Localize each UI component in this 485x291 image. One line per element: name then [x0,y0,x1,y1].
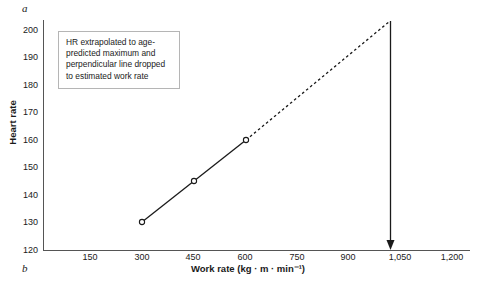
data-point-marker [191,178,196,183]
drop-line-arrow-head [387,240,395,250]
data-point-marker [243,137,248,142]
annotation-textbox: HR extrapolated to age-predicted maximum… [58,31,180,89]
data-point-marker [139,219,144,224]
series-extrapolation-dashed-line [246,21,390,140]
figure-chart-heart-rate-vs-work-rate: a b Heart rate Work rate (kg · m · min⁻¹… [0,0,485,291]
